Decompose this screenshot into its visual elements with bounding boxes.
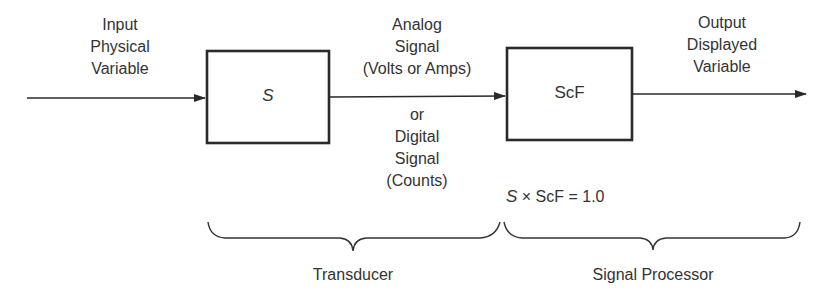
input-label-line: Variable bbox=[60, 58, 180, 80]
analog-label-line: Analog bbox=[337, 14, 497, 36]
signal-processor-group-label: Signal Processor bbox=[573, 264, 733, 286]
input-label-line: Input bbox=[60, 14, 180, 36]
equation-rest: × ScF = 1.0 bbox=[522, 188, 605, 205]
transducer-block-label: S bbox=[207, 86, 329, 106]
digital-label-line: Digital bbox=[337, 126, 497, 148]
analog-label-line: (Volts or Amps) bbox=[337, 58, 497, 80]
processor-block-label: ScF bbox=[507, 83, 632, 103]
digital-label-line: Signal bbox=[337, 148, 497, 170]
signal-processor-brace bbox=[504, 222, 800, 250]
transducer-brace bbox=[208, 222, 500, 251]
input-label-line: Physical bbox=[60, 36, 180, 58]
transducer-group-label: Transducer bbox=[283, 264, 423, 286]
analog-signal-label: Analog Signal (Volts or Amps) bbox=[337, 14, 497, 80]
scaling-equation: S × ScF = 1.0 bbox=[506, 186, 605, 208]
output-label: Output Displayed Variable bbox=[657, 12, 787, 78]
output-label-line: Output bbox=[657, 12, 787, 34]
analog-label-line: Signal bbox=[337, 36, 497, 58]
signal-arrow bbox=[330, 96, 505, 97]
digital-label-line: or bbox=[337, 104, 497, 126]
output-label-line: Variable bbox=[657, 56, 787, 78]
input-label: Input Physical Variable bbox=[60, 14, 180, 80]
digital-label-line: (Counts) bbox=[337, 170, 497, 192]
equation-s: S bbox=[506, 187, 517, 206]
output-label-line: Displayed bbox=[657, 34, 787, 56]
digital-signal-label: or Digital Signal (Counts) bbox=[337, 104, 497, 192]
